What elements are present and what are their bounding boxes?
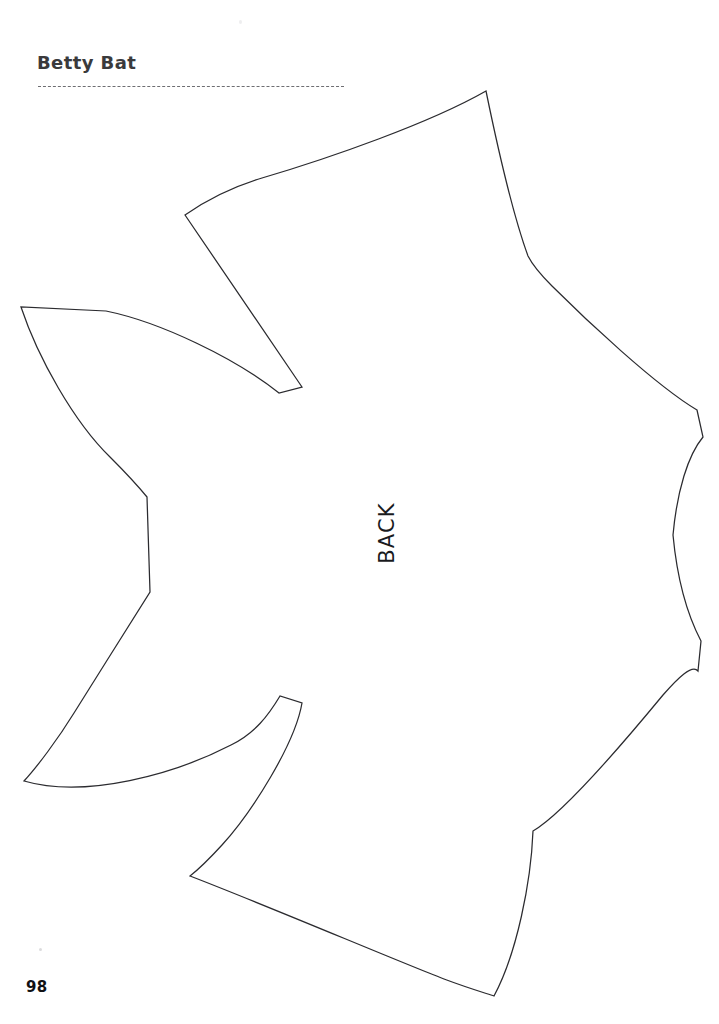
back-side-label: BACK — [375, 502, 399, 564]
page-number: 98 — [26, 978, 47, 996]
pattern-stage — [0, 0, 719, 1024]
bat-outline-path — [21, 91, 703, 996]
bat-pattern-svg — [0, 0, 719, 1024]
pattern-page: Betty Bat BACK 98 — [0, 0, 719, 1024]
